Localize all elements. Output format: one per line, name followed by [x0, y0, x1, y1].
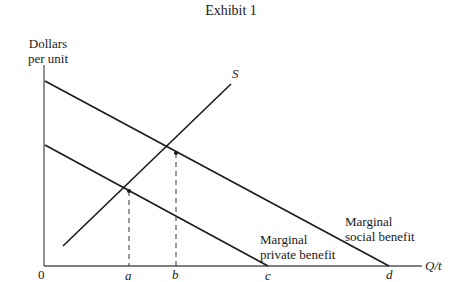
equilibrium-point-b	[174, 151, 178, 155]
msb-label: Marginal social benefit	[345, 214, 415, 244]
mpb-label: Marginal private benefit	[260, 232, 335, 262]
equilibrium-point-a	[127, 189, 131, 193]
supply-label: S	[232, 66, 239, 81]
tick-c: c	[265, 268, 271, 282]
msb-label-line2: social benefit	[345, 229, 415, 244]
msb-label-line1: Marginal	[345, 214, 415, 229]
x-axis-label: Q/t	[425, 258, 442, 274]
tick-b: b	[172, 267, 179, 282]
tick-d: d	[386, 267, 393, 282]
mpb-label-line1: Marginal	[260, 232, 335, 247]
mpb-label-line2: private benefit	[260, 247, 335, 262]
tick-a: a	[125, 268, 132, 282]
supply-curve	[63, 84, 231, 246]
mpb-curve	[45, 145, 268, 266]
origin-label: 0	[38, 267, 45, 282]
